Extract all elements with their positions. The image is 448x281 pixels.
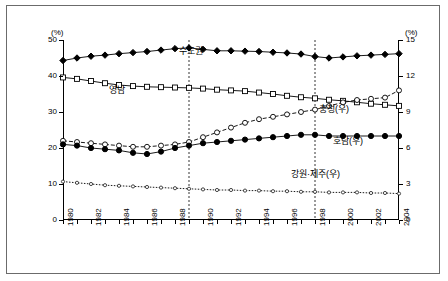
data-point-marker [229,188,232,191]
data-point-marker [74,55,80,61]
y-axis-left-tick-label: 30 [35,107,57,116]
data-point-marker [298,51,304,57]
x-axis-tick-mark [189,220,190,224]
data-point-marker [355,191,358,194]
data-point-marker [299,95,304,100]
data-point-marker [131,144,136,149]
data-point-marker [200,141,205,146]
x-axis-tick-mark [63,220,64,224]
y-axis-right-tick-label: 15 [406,35,428,44]
data-point-marker [228,138,233,143]
data-point-marker [61,180,64,183]
x-axis-tick-mark [315,220,316,224]
data-point-marker [229,88,234,93]
data-point-marker [88,145,93,150]
data-point-marker [75,76,80,81]
data-point-marker [214,48,220,54]
data-point-marker [229,125,234,130]
x-axis-tick-label: 1980 [66,208,75,226]
y-axis-left-tick-mark [59,112,63,113]
data-point-marker [382,133,387,138]
data-point-marker [201,86,206,91]
series-annotation-label: 영남 [109,83,125,96]
x-axis-tick-label: 1994 [262,208,271,226]
series-annotation-label: 호남(우) [333,134,363,147]
series-annotation-label: 강원·제주(우) [291,167,340,180]
series-annotation-label: 수도권 [179,44,203,57]
data-point-marker [312,53,318,59]
data-point-marker [383,95,388,100]
data-point-marker [326,133,331,138]
data-point-marker [369,191,372,194]
y-axis-right-tick-label: 3 [406,179,428,188]
data-point-marker [242,137,247,142]
x-axis-tick-label: 1984 [122,208,131,226]
x-axis-tick-mark [231,220,232,224]
data-point-marker [201,188,204,191]
x-axis-tick-mark [133,220,134,224]
data-point-marker [103,184,106,187]
data-point-marker [257,189,260,192]
data-point-marker [159,143,164,148]
data-point-marker [131,185,134,188]
x-axis-tick-mark [343,220,344,224]
data-point-marker [270,135,275,140]
data-point-marker [89,182,92,185]
data-point-marker [131,84,136,89]
x-axis-tick-label: 2000 [346,208,355,226]
data-point-marker [159,186,162,189]
x-axis-tick-mark [217,220,218,224]
data-point-marker [271,190,274,193]
series-annotation-label: 충청(우) [319,102,349,115]
x-axis-tick-label: 1996 [290,208,299,226]
data-point-marker [284,50,290,56]
data-point-marker [271,114,276,119]
data-point-marker [172,145,177,150]
data-point-marker [144,151,149,156]
data-point-marker [145,84,150,89]
x-axis-tick-mark [147,220,148,224]
chart-graphics [7,6,441,275]
y-axis-left-tick-mark [59,40,63,41]
data-point-marker [243,89,248,94]
data-point-marker [383,191,386,194]
data-point-marker [187,187,190,190]
data-point-marker [256,48,262,54]
x-axis-tick-mark [245,220,246,224]
data-point-marker [89,79,94,84]
data-point-marker [285,112,290,117]
data-point-marker [172,45,178,51]
data-point-marker [158,47,164,53]
y-axis-right-tick-mark [399,184,403,185]
data-point-marker [368,133,373,138]
x-axis-tick-label: 2002 [374,208,383,226]
data-point-marker [60,142,65,147]
data-point-marker [271,92,276,97]
data-point-marker [341,191,344,194]
y-axis-left-tick-label: 50 [35,35,57,44]
data-point-marker [187,85,192,90]
data-point-marker [102,52,108,58]
data-point-marker [326,55,332,61]
x-axis-tick-label: 1986 [150,208,159,226]
x-axis-tick-mark [119,220,120,224]
data-point-marker [397,192,400,195]
data-point-marker [103,81,108,86]
data-point-marker [173,85,178,90]
data-point-marker [257,117,262,122]
data-point-marker [242,48,248,54]
data-point-marker [354,53,360,59]
x-axis-tick-label: 1982 [94,208,103,226]
y-axis-right-tick-mark [399,40,403,41]
data-point-marker [313,190,316,193]
data-point-marker [396,50,402,56]
data-point-marker [144,48,150,54]
data-point-marker [368,52,374,58]
data-point-marker [88,53,94,59]
data-point-marker [285,190,288,193]
data-point-marker [285,93,290,98]
y-axis-left-tick-label: 20 [35,143,57,152]
y-axis-left-tick-mark [59,184,63,185]
data-point-marker [270,49,276,55]
data-point-marker [299,190,302,193]
